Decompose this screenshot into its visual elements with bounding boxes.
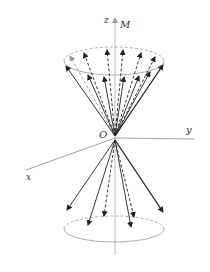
magnetization-label: M <box>119 19 131 30</box>
y-axis-label: y <box>185 124 192 135</box>
z-axis-label: z <box>103 15 109 25</box>
x-axis <box>26 138 115 170</box>
x-axis-label: x <box>26 172 31 182</box>
lower-cone-ellipse <box>64 216 164 242</box>
origin-label: O <box>99 129 107 140</box>
precession-cone-diagram: z M O y x <box>0 0 210 272</box>
y-axis <box>115 138 195 139</box>
upper-cone-arrows <box>66 50 163 136</box>
upper-cone-ellipse <box>64 47 164 75</box>
axes <box>26 18 195 255</box>
